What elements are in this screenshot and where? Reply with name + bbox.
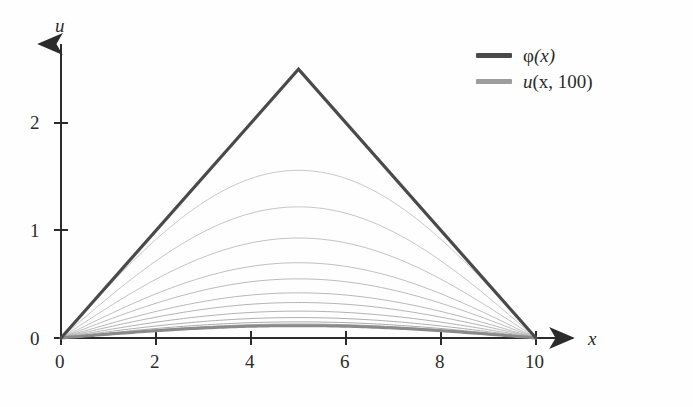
x-tick-label-10: 10 bbox=[525, 352, 544, 371]
legend-label-phi-arg: (x) bbox=[534, 45, 555, 66]
x-axis-label: x bbox=[588, 329, 596, 348]
legend-label-u-arg: (x, 100) bbox=[533, 71, 593, 92]
legend-swatch-phi bbox=[476, 53, 512, 58]
legend-swatch-u bbox=[476, 79, 512, 84]
solution-curve bbox=[61, 318, 536, 338]
solution-curve-family bbox=[61, 170, 536, 338]
final-solution-curve bbox=[61, 326, 536, 338]
y-tick-label-0: 0 bbox=[30, 329, 40, 348]
legend-label-u: u(x, 100) bbox=[523, 72, 593, 91]
chart-legend: φ(x) u(x, 100) bbox=[476, 42, 666, 94]
solution-curve bbox=[61, 207, 536, 338]
solution-curve bbox=[61, 170, 536, 338]
x-tick-label-0: 0 bbox=[55, 352, 65, 371]
solution-curve bbox=[61, 238, 536, 338]
legend-entry-u: u(x, 100) bbox=[476, 68, 666, 94]
y-axis-label: u bbox=[55, 16, 65, 35]
y-tick-label-1: 1 bbox=[30, 221, 40, 240]
legend-label-u-symbol: u bbox=[523, 71, 533, 92]
chart-figure: 2 1 0 0 2 4 6 8 10 u x φ(x) u(x, 100) bbox=[0, 0, 693, 407]
x-tick-label-8: 8 bbox=[435, 352, 445, 371]
legend-label-phi-symbol: φ bbox=[523, 45, 534, 66]
y-tick-label-2: 2 bbox=[30, 113, 40, 132]
x-tick-label-4: 4 bbox=[245, 352, 255, 371]
legend-entry-phi: φ(x) bbox=[476, 42, 666, 68]
x-tick-label-2: 2 bbox=[150, 352, 160, 371]
legend-label-phi: φ(x) bbox=[523, 46, 555, 65]
initial-condition-curve bbox=[61, 69, 536, 338]
x-tick-label-6: 6 bbox=[340, 352, 350, 371]
